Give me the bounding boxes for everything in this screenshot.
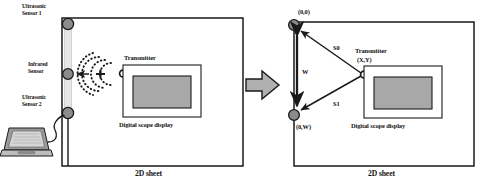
origin-node	[289, 20, 300, 31]
label-distance-s1: S1	[333, 101, 340, 108]
label-origin-coordinate: (0,0)	[298, 9, 310, 16]
label-digital-scope-display-left: Digital scope display	[119, 122, 173, 129]
label-infrared-sensor-line2: Sensor	[28, 69, 44, 75]
figure-root: Ultrasonic Sensor 1 Infrared Sensor Ultr…	[0, 0, 485, 192]
digital-scope-box-right	[364, 66, 442, 118]
label-ultrasonic-sensor-1-line2: Sensor 1	[22, 11, 41, 17]
caption-2d-sheet-left: 2D sheet	[135, 170, 162, 178]
label-digital-scope-display-right: Digital scope display	[351, 123, 405, 130]
digital-scope-box-left	[123, 65, 201, 117]
label-transmitter-right: Transmitter	[355, 48, 387, 55]
figure-vector-layer	[0, 0, 485, 192]
ultrasonic-sensor-1-node	[62, 18, 73, 29]
baseline-bottom-node	[289, 110, 300, 121]
laptop-icon	[0, 128, 53, 156]
caption-2d-sheet-right: 2D sheet	[368, 170, 395, 178]
ultrasonic-sensor-2-node	[62, 107, 73, 118]
label-ultrasonic-sensor-2-line2: Sensor 2	[22, 102, 41, 108]
label-baseline-w: W	[302, 69, 308, 76]
infrared-sensor-node	[63, 69, 74, 80]
right-block-arrow-icon	[246, 71, 279, 99]
label-bottom-corner-coordinate: (0,W)	[296, 124, 311, 131]
label-transmitter-left: Transmitter	[124, 55, 156, 62]
label-transmitter-coordinates: (X,Y)	[357, 57, 372, 64]
label-distance-s0: S0	[333, 45, 340, 52]
